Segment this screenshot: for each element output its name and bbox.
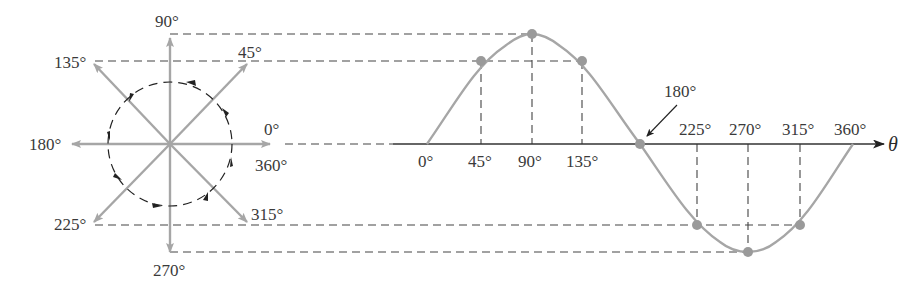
point-45 [476,56,486,66]
tick-180: 180° [664,82,696,101]
point-90 [527,29,537,39]
ccw-arrow-icon [186,80,196,86]
tick-315: 315° [782,120,814,139]
phasor-arrow-315 [170,144,247,222]
phasor-arrow-225 [94,144,170,222]
phasor-labels: 90° 45° 135° 0° 360° 180° 225° 315° 270° [29,12,287,280]
theta-axis-label: θ [888,133,898,155]
label-135: 135° [54,53,86,72]
label-315: 315° [251,205,283,224]
ccw-arrow-icon [129,93,134,102]
tick-360: 360° [834,120,866,139]
phasor-arrows [72,38,270,252]
tick-135: 135° [566,152,598,171]
point-225 [692,220,702,230]
label-360: 360° [255,156,287,175]
phasor-sine-diagram: 90° 45° 135° 0° 360° 180° 225° 315° 270°… [0,0,921,294]
tick-0: 0° [418,152,433,171]
ccw-arrow-icon [222,108,229,117]
point-135 [577,56,587,66]
pointer-arrow-180-icon [647,105,677,136]
ccw-arrow-icon [113,173,122,180]
ccw-arrow-icon [230,157,233,167]
sine-points [476,29,805,257]
label-45: 45° [238,43,262,62]
point-180 [635,139,645,149]
tick-45: 45° [468,152,492,171]
point-315 [795,220,805,230]
tick-270: 270° [729,120,761,139]
point-270 [743,247,753,257]
label-180: 180° [29,135,61,154]
label-90: 90° [155,12,179,31]
label-0: 0° [264,120,279,139]
label-225: 225° [54,215,86,234]
diagram-canvas: 90° 45° 135° 0° 360° 180° 225° 315° 270°… [0,0,921,294]
phasor-arrow-135 [94,64,170,144]
tick-225: 225° [679,120,711,139]
label-270: 270° [153,261,185,280]
phasor-arrow-45 [170,64,247,144]
tick-90: 90° [518,152,542,171]
tick-labels: 0° 45° 90° 135° 180° 225° 270° 315° 360° [418,82,866,171]
